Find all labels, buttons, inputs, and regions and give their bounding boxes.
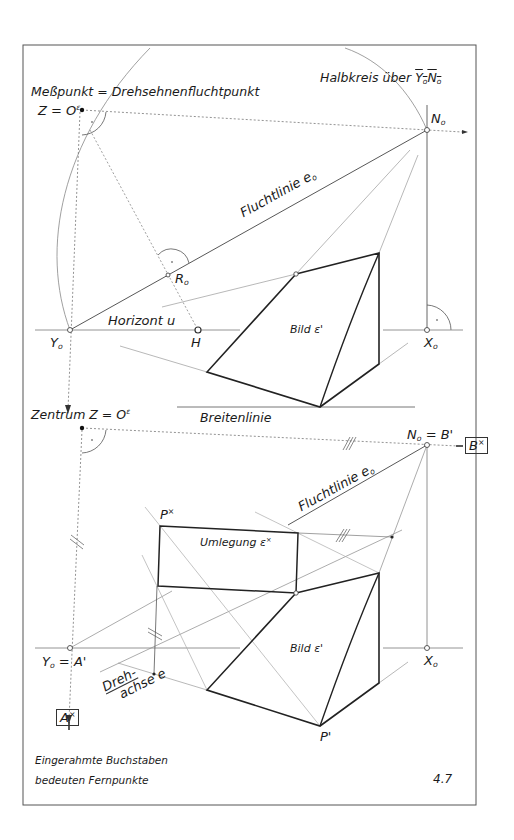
y0-sub: o [58,342,63,351]
p-star-label: P× [160,508,174,521]
zentrum-sup: ε [126,407,130,416]
y0b-eq: = A' [55,654,87,669]
x0b-text: X [424,653,433,668]
p-prime-label: P' [320,730,331,743]
x0-top-label: Xo [424,336,438,351]
zentrum-text: Zentrum Z = O [31,407,126,422]
b-star-text: B [469,438,478,453]
y0b-text: Y [42,654,50,669]
zentrum-label: Zentrum Z = Oε [31,408,130,421]
figure-frame [23,45,476,805]
horizont-label: Horizont u [108,314,175,327]
r0-label: Ro [175,272,189,287]
n0b-eq: = B' [422,427,454,442]
umlegung-sup: × [266,536,272,544]
x0b-sub: o [433,660,438,669]
p-star-text: P [160,507,168,522]
x0-text: X [424,335,433,350]
n0b-text: N [407,427,417,442]
segment-n-sub: o [437,77,442,86]
r0-sub: o [184,278,189,287]
y0-bottom-label: Yo = A' [42,655,86,670]
bild-top-label: Bild ε' [290,324,323,335]
x0-bottom-label: Xo [424,654,438,669]
a-star-text: A [60,710,69,725]
z-label: Z = Oε [38,104,81,117]
n0-label: No [431,112,446,127]
z-sup: ε [76,103,80,112]
segment-n: N [427,70,436,85]
breitenlinie-label: Breitenlinie [200,412,271,425]
segment-y: Y [415,70,423,85]
p-star-sup: × [168,507,175,516]
n0-text: N [431,111,441,126]
halbkreis-text: Halbkreis über [320,70,415,85]
b-star-sup: × [478,438,485,447]
y0-text: Y [50,335,58,350]
umlegung-label: Umlegung ε× [200,537,271,548]
a-star-sup: × [69,710,76,719]
n0-sub: o [441,118,446,127]
segment-y0n0: YoNo [415,70,441,85]
y0-top-label: Yo [50,336,63,351]
caption-line-1: Eingerahmte Buchstaben [35,755,168,766]
z-text: Z = O [38,103,76,118]
n0-b-label: No = B' [407,428,453,443]
x0-sub: o [433,342,438,351]
halbkreis-label: Halbkreis über YoNo [320,72,441,85]
r0-text: R [175,271,184,286]
h-label: H [191,336,201,349]
figure-number: 4.7 [433,773,452,785]
a-star-box: A× [56,709,79,726]
b-star-box: B× [465,437,488,454]
bild-bottom-label: Bild ε' [290,643,323,654]
bottom-construction [35,426,463,730]
top-construction [35,48,468,414]
caption-line-2: bedeuten Fernpunkte [35,775,149,786]
messpunkt-label: Meßpunkt = Drehsehnenfluchtpunkt [31,86,259,99]
umlegung-text: Umlegung ε [200,536,266,549]
